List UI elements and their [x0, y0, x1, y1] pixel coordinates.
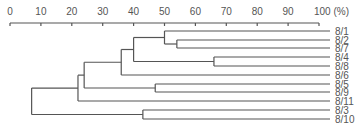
x-tick-label: 40 — [128, 6, 140, 17]
x-tick-label: 70 — [221, 6, 233, 17]
x-tick-label: 100 (%) — [314, 6, 349, 17]
leaf-label: 8/10 — [335, 114, 355, 125]
x-tick-label: 20 — [66, 6, 78, 17]
x-tick-label: 50 — [159, 6, 171, 17]
x-tick-label: 0 — [7, 6, 13, 17]
dendrogram-svg: 0102030405060708090100 (%)8/18/28/78/48/… — [0, 0, 364, 129]
x-tick-label: 10 — [35, 6, 47, 17]
dendrogram-chart: 0102030405060708090100 (%)8/18/28/78/48/… — [0, 0, 364, 129]
x-tick-label: 60 — [190, 6, 202, 17]
x-tick-label: 90 — [283, 6, 295, 17]
x-tick-label: 80 — [252, 6, 264, 17]
x-tick-label: 30 — [97, 6, 109, 17]
